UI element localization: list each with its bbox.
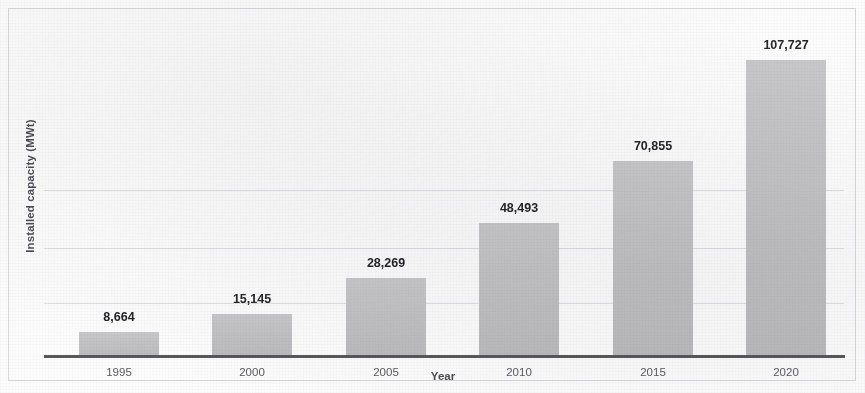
bar-2010 bbox=[479, 223, 559, 356]
bar-value-label-2020: 107,727 bbox=[721, 38, 851, 52]
bar-value-label-2015: 70,855 bbox=[588, 139, 718, 153]
bar-2000 bbox=[212, 314, 292, 356]
bar-chart: Installed capacity (MWt) 8,66415,14528,2… bbox=[0, 0, 865, 393]
bar-2020 bbox=[746, 60, 826, 356]
x-tick-1995: 1995 bbox=[59, 366, 179, 378]
x-tick-2015: 2015 bbox=[593, 366, 713, 378]
bar-2005 bbox=[346, 278, 426, 356]
bar-value-label-1995: 8,664 bbox=[54, 310, 184, 324]
x-axis-line bbox=[44, 355, 845, 358]
bar-value-label-2005: 28,269 bbox=[321, 256, 451, 270]
bar-value-label-2000: 15,145 bbox=[187, 292, 317, 306]
x-tick-2000: 2000 bbox=[192, 366, 312, 378]
plot-area bbox=[8, 8, 856, 381]
y-axis-title: Installed capacity (MWt) bbox=[24, 86, 36, 286]
x-axis-title: Year bbox=[408, 370, 478, 382]
bar-2015 bbox=[613, 161, 693, 356]
bar-1995 bbox=[79, 332, 159, 356]
gridline bbox=[44, 248, 844, 249]
gridline bbox=[44, 303, 844, 304]
x-tick-2020: 2020 bbox=[726, 366, 846, 378]
bar-value-label-2010: 48,493 bbox=[454, 201, 584, 215]
gridline bbox=[44, 190, 844, 191]
